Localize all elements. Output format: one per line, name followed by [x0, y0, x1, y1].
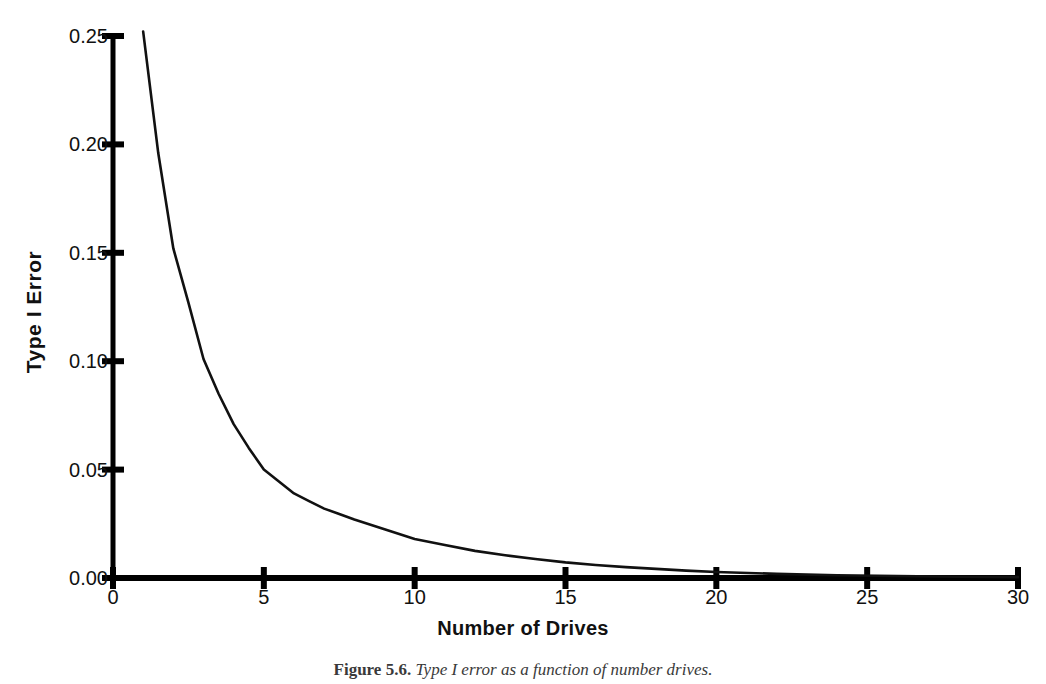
axes-group — [102, 34, 1020, 589]
y-tick-label: 0.10 — [32, 350, 108, 373]
x-tick-label: 20 — [686, 586, 746, 609]
x-tick-label: 10 — [385, 586, 445, 609]
caption-text: Type I error as a function of number dri… — [415, 660, 712, 679]
x-tick-label: 15 — [536, 586, 596, 609]
y-tick-label: 0.25 — [32, 25, 108, 48]
data-series-group — [143, 32, 1018, 577]
data-line — [143, 32, 1018, 577]
y-axis-tick-labels: 0.000.050.100.150.200.25 — [24, 0, 108, 660]
figure-container: Type I Error Number of Drives 0.000.050.… — [0, 0, 1046, 684]
x-tick-label: 5 — [234, 586, 294, 609]
y-tick-label: 0.20 — [32, 133, 108, 156]
y-tick-label: 0.15 — [32, 241, 108, 264]
chart-svg — [0, 0, 1046, 660]
x-tick-label: 30 — [988, 586, 1046, 609]
x-axis-title: Number of Drives — [0, 617, 1046, 640]
chart-plot-area: Type I Error Number of Drives 0.000.050.… — [0, 0, 1046, 660]
figure-caption: Figure 5.6. Type I error as a function o… — [0, 660, 1046, 680]
caption-label: Figure 5.6. — [334, 660, 412, 679]
x-tick-label: 25 — [837, 586, 897, 609]
y-tick-label: 0.05 — [32, 458, 108, 481]
x-tick-label: 0 — [83, 586, 143, 609]
